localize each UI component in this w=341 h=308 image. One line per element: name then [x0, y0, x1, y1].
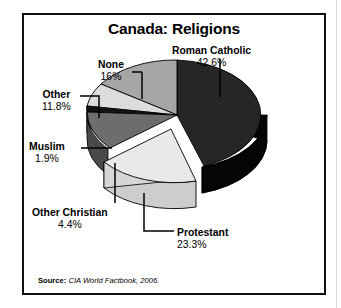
pie-label-roman-catholic: Roman Catholic 42.6%	[172, 45, 251, 68]
source-label: Source:	[38, 276, 66, 285]
pie-label-other: Other 11.8%	[42, 89, 71, 112]
pie-label-protestant: Protestant 23.3%	[177, 227, 228, 250]
pie-label-none: None 16%	[98, 59, 124, 82]
pie-label-none-name: None	[98, 59, 124, 71]
pie-label-muslim-value: 1.9%	[29, 153, 65, 165]
pie-label-muslim: Muslim 1.9%	[29, 141, 65, 164]
figure-container: Canada: Religions	[22, 13, 326, 295]
source-note: Source: CIA World Factbook, 2006.	[38, 276, 159, 285]
pie-label-other-christian: Other Christian 4.4%	[32, 207, 108, 230]
pie-label-other-christian-value: 4.4%	[32, 219, 108, 231]
pie-label-roman-catholic-name: Roman Catholic	[172, 45, 251, 57]
pie-label-roman-catholic-value: 42.6%	[172, 57, 251, 69]
pie-label-other-value: 11.8%	[42, 101, 71, 113]
source-text: CIA World Factbook, 2006.	[68, 276, 159, 285]
pie-label-muslim-name: Muslim	[29, 141, 65, 153]
pie-chart-plot-area: Roman Catholic 42.6% None 16% Other 11.8…	[24, 15, 328, 297]
pie-label-protestant-name: Protestant	[177, 227, 228, 239]
pie-label-other-name: Other	[42, 89, 71, 101]
pie-label-protestant-value: 23.3%	[177, 239, 228, 251]
page-edge-line	[336, 0, 337, 308]
pie-label-none-value: 16%	[98, 71, 124, 83]
pie-label-other-christian-name: Other Christian	[32, 207, 108, 219]
